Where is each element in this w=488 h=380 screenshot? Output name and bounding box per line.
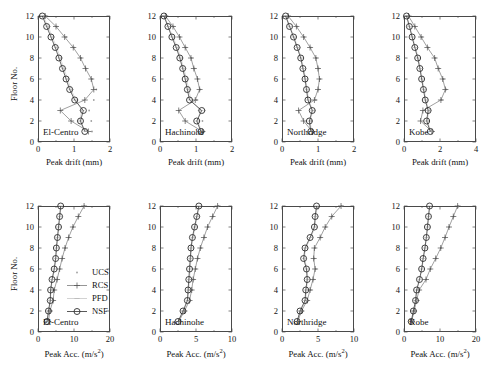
series-marker-rcs <box>311 256 317 262</box>
y-tick-label: 10 <box>134 223 156 232</box>
legend-marker-ucs-icon <box>66 266 88 279</box>
series-marker-rcs <box>81 203 87 209</box>
y-tick-label: 8 <box>12 54 34 63</box>
series-marker-rcs <box>70 224 76 230</box>
series-marker-rcs <box>201 235 207 241</box>
series-line-rcs <box>412 206 458 322</box>
x-tick-label: 10 <box>60 335 88 344</box>
series-marker-rcs <box>205 224 211 230</box>
series-marker-rcs <box>424 45 430 51</box>
x-axis-title: Peak drift (mm) <box>404 158 476 167</box>
y-tick-label: 2 <box>12 307 34 316</box>
legend-label: UCS <box>88 268 109 277</box>
series-marker-rcs <box>191 66 197 72</box>
x-tick-label: 0 <box>390 145 418 154</box>
series-marker-rcs <box>197 87 203 93</box>
series-marker-rcs <box>197 245 203 251</box>
series-marker-rcs <box>435 66 441 72</box>
series-marker-ucs <box>93 99 95 101</box>
y-tick-label: 2 <box>256 117 278 126</box>
y-tick-label: 8 <box>134 54 156 63</box>
series-marker-rcs <box>446 224 452 230</box>
panel-record-label: El-Centro <box>43 128 79 137</box>
series-line-pfd <box>412 206 430 322</box>
y-tick-label: 6 <box>378 265 400 274</box>
y-tick-label: 10 <box>256 223 278 232</box>
y-tick-label: 2 <box>134 117 156 126</box>
panel-record-label: Northridge <box>287 128 327 137</box>
series-marker-rcs <box>317 235 323 241</box>
y-tick-label: 2 <box>12 117 34 126</box>
x-tick-label: 1 <box>182 145 210 154</box>
x-tick-label: 4 <box>462 145 488 154</box>
series-marker-rcs <box>322 224 328 230</box>
series-marker-ucs <box>88 110 90 112</box>
x-axis-title: Peak Acc. (m/s2) <box>160 348 232 359</box>
series-marker-rcs <box>77 55 83 61</box>
legend-item-nsf: NSF <box>66 305 109 318</box>
y-tick-label: 12 <box>134 202 156 211</box>
legend-marker-nsf-icon <box>66 305 88 318</box>
y-tick-label: 12 <box>378 202 400 211</box>
y-tick-label: 6 <box>378 75 400 84</box>
legend-label: NSF <box>88 307 108 316</box>
series-marker-rcs <box>176 108 182 114</box>
chart-panel-el-centro-acc: 02468101201020Peak Acc. (m/s2)Floor No.E… <box>0 190 122 380</box>
series-marker-rcs <box>194 76 200 82</box>
series-line-pfd <box>164 16 201 132</box>
x-tick-label: 0 <box>146 335 174 344</box>
series-marker-rcs <box>442 235 448 241</box>
x-tick-label: 0 <box>24 145 52 154</box>
y-axis-title: Floor No. <box>10 257 19 291</box>
chart-panel-hachinohe-drift: 024681012012Peak drift (mm)Hachinohe <box>122 0 244 190</box>
y-tick-label: 12 <box>12 12 34 21</box>
y-tick-label: 6 <box>256 75 278 84</box>
panel-record-label: El-Centro <box>43 318 79 327</box>
y-tick-label: 4 <box>378 286 400 295</box>
y-tick-label: 2 <box>378 307 400 316</box>
x-tick-label: 5 <box>304 335 332 344</box>
series-marker-ucs <box>90 120 92 122</box>
series-marker-rcs <box>83 66 89 72</box>
y-tick-label: 2 <box>134 307 156 316</box>
series-marker-rcs <box>293 24 299 30</box>
chart-panel-el-centro-drift: 024681012012Peak drift (mm)Floor No.El-C… <box>0 0 122 190</box>
y-tick-label: 12 <box>256 12 278 21</box>
series-line-nsf <box>407 16 431 132</box>
panel-record-label: Northridge <box>287 318 327 327</box>
x-tick-label: 20 <box>96 335 124 344</box>
series-marker-rcs <box>311 97 317 103</box>
series-line-nsf <box>411 206 429 322</box>
y-tick-label: 10 <box>256 33 278 42</box>
x-tick-label: 20 <box>462 335 488 344</box>
x-axis-title: Peak Acc. (m/s2) <box>404 348 476 359</box>
x-tick-label: 2 <box>426 145 454 154</box>
y-tick-label: 4 <box>378 96 400 105</box>
y-tick-label: 10 <box>378 33 400 42</box>
series-marker-rcs <box>312 266 318 272</box>
series-marker-rcs <box>215 203 221 209</box>
series-marker-rcs <box>192 266 198 272</box>
series-marker-rcs <box>307 45 313 51</box>
y-tick-label: 6 <box>134 75 156 84</box>
series-marker-rcs <box>301 34 307 40</box>
x-tick-label: 0 <box>24 335 52 344</box>
legend-item-rcs: RCS <box>66 279 109 292</box>
y-tick-label: 4 <box>256 96 278 105</box>
y-tick-label: 10 <box>378 223 400 232</box>
series-marker-rcs <box>427 266 433 272</box>
series-line-nsf <box>286 16 313 132</box>
y-tick-label: 8 <box>256 54 278 63</box>
series-marker-rcs <box>176 34 182 40</box>
chart-panel-northridge-drift: 024681012012Peak drift (mm)Northridge <box>244 0 366 190</box>
series-line-nsf <box>164 16 202 132</box>
series-marker-rcs <box>316 76 322 82</box>
legend-item-ucs: UCS <box>66 266 109 279</box>
y-tick-label: 4 <box>134 286 156 295</box>
y-tick-label: 10 <box>12 33 34 42</box>
y-tick-label: 8 <box>378 244 400 253</box>
panel-record-label: Kobe <box>409 318 429 327</box>
series-marker-rcs <box>194 256 200 262</box>
y-tick-label: 12 <box>134 12 156 21</box>
series-marker-rcs <box>315 66 321 72</box>
